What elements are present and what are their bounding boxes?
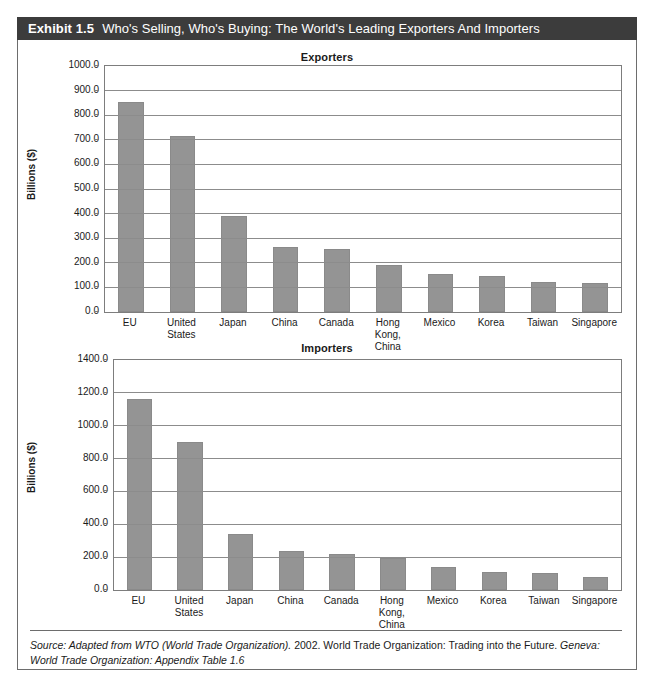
x-tick-label: United States xyxy=(164,595,215,619)
x-tick-label: United States xyxy=(156,317,208,341)
source-part-1: Source: Adapted from WTO (World Trade Or… xyxy=(30,639,291,651)
source-part-3: World Trade Organization: Trading into t… xyxy=(320,639,557,651)
bar xyxy=(431,567,456,590)
bar xyxy=(532,573,557,590)
gridline xyxy=(114,458,621,459)
x-tick-label: Japan xyxy=(214,595,265,607)
chart-title-importers: Importers xyxy=(18,342,636,354)
y-tick-mark xyxy=(103,425,108,426)
y-tick-mark xyxy=(94,65,99,66)
y-tick-mark xyxy=(103,392,108,393)
x-tick-label: Hong Kong, China xyxy=(367,595,418,631)
y-tick-mark xyxy=(103,589,108,590)
bar xyxy=(170,136,196,312)
x-tick-label: EU xyxy=(113,595,164,607)
y-tick-mark xyxy=(94,237,99,238)
gridline xyxy=(114,524,621,525)
exhibit-title-bar: Exhibit 1.5 Who's Selling, Who's Buying:… xyxy=(17,17,637,40)
bar xyxy=(324,249,350,312)
source-note: Source: Adapted from WTO (World Trade Or… xyxy=(30,630,622,668)
exhibit-number: Exhibit 1.5 xyxy=(28,21,94,36)
y-tick-mark xyxy=(103,523,108,524)
bar xyxy=(376,265,402,312)
y-axis-label-importers: Billions ($) xyxy=(26,433,37,503)
gridline xyxy=(105,164,621,165)
y-tick-mark xyxy=(103,490,108,491)
bar xyxy=(127,399,152,590)
x-tick-label: Mexico xyxy=(417,595,468,607)
plot-area-importers xyxy=(113,359,622,591)
x-tick-label: Canada xyxy=(310,317,362,329)
bar xyxy=(273,247,299,312)
chart-title-exporters: Exporters xyxy=(18,51,636,63)
gridline xyxy=(105,262,621,263)
gridline xyxy=(105,90,621,91)
x-tick-label: Mexico xyxy=(414,317,466,329)
chart-importers: Importers Billions ($) 0.0200.0400.0600.… xyxy=(18,342,636,627)
source-part-2: 2002. xyxy=(291,639,320,651)
gridline xyxy=(105,287,621,288)
y-tick-mark xyxy=(94,139,99,140)
bar xyxy=(380,558,405,590)
x-tick-label: Taiwan xyxy=(517,317,569,329)
gridline xyxy=(114,425,621,426)
x-tick-label: Canada xyxy=(316,595,367,607)
gridline xyxy=(114,557,621,558)
x-tick-label: Singapore xyxy=(568,317,620,329)
x-tick-label: China xyxy=(259,317,311,329)
bar xyxy=(177,442,202,590)
y-tick-mark xyxy=(94,311,99,312)
bar xyxy=(221,216,247,312)
chart-exporters: Exporters Billions ($) 0.0100.0200.0300.… xyxy=(18,51,636,336)
x-tick-label: Singapore xyxy=(569,595,620,607)
bar xyxy=(228,534,253,590)
y-tick-mark xyxy=(94,213,99,214)
plot-area-exporters xyxy=(104,65,622,313)
bar-series-importers xyxy=(114,360,621,590)
y-axis-ticks-importers: 0.0200.0400.0600.0800.01000.01200.01400.… xyxy=(48,359,108,591)
exhibit-container: Exhibit 1.5 Who's Selling, Who's Buying:… xyxy=(17,17,637,670)
x-tick-label: China xyxy=(265,595,316,607)
y-tick-mark xyxy=(103,458,108,459)
bar xyxy=(329,554,354,590)
gridline xyxy=(105,213,621,214)
bar xyxy=(482,572,507,590)
y-tick-mark xyxy=(94,286,99,287)
y-axis-label-exporters: Billions ($) xyxy=(26,140,37,210)
x-tick-label: Taiwan xyxy=(519,595,570,607)
y-axis-ticks-exporters: 0.0100.0200.0300.0400.0500.0600.0700.080… xyxy=(46,65,99,313)
x-tick-label: Japan xyxy=(207,317,259,329)
bar xyxy=(118,102,144,312)
gridline xyxy=(114,392,621,393)
gridline xyxy=(105,139,621,140)
x-tick-label: Korea xyxy=(465,317,517,329)
page-title: Who's Selling, Who's Buying: The World's… xyxy=(102,21,540,36)
y-tick-mark xyxy=(94,188,99,189)
gridline xyxy=(105,115,621,116)
gridline xyxy=(105,238,621,239)
y-tick-mark xyxy=(94,90,99,91)
y-tick-mark xyxy=(94,262,99,263)
x-tick-label: Korea xyxy=(468,595,519,607)
y-tick-mark xyxy=(94,163,99,164)
gridline xyxy=(114,491,621,492)
y-tick-mark xyxy=(103,359,108,360)
bar xyxy=(583,577,608,590)
y-tick-mark xyxy=(103,556,108,557)
x-tick-label: EU xyxy=(104,317,156,329)
bar xyxy=(428,274,454,312)
y-tick-mark xyxy=(94,114,99,115)
bar xyxy=(479,276,505,312)
gridline xyxy=(105,189,621,190)
